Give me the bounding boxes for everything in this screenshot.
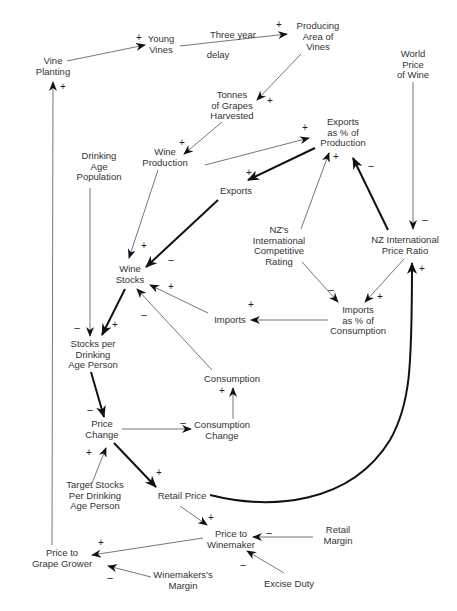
label-three-year: Three year	[210, 30, 256, 41]
sign-minus-grower-margin: –	[107, 572, 113, 583]
sign-plus-grower: +	[98, 537, 104, 548]
node-drinking-age-pop: Drinking Age Population	[77, 151, 122, 183]
link-excise-winemaker	[247, 551, 284, 573]
node-stocks-per-person: Stocks per Drinking Age Person	[68, 339, 118, 371]
sign-plus-exports: +	[246, 167, 252, 178]
node-consumption-change: Consumption Change	[194, 420, 250, 441]
link-planting-youngvines	[67, 45, 145, 61]
node-winemakers-margin: Winemakers's Margin	[153, 570, 212, 591]
sign-plus-exportspct: +	[302, 122, 308, 133]
link-area-tonnes	[257, 54, 301, 100]
sign-plus-production: +	[179, 137, 185, 148]
sign-minus-stockspp-population: –	[74, 322, 80, 333]
sign-minus-stocks-consumption: –	[141, 309, 147, 320]
link-consumption-stocks	[137, 289, 212, 370]
node-producing-area: Producing Area of Vines	[297, 21, 340, 53]
link-target-pricechange	[92, 448, 106, 483]
link-exports-stocks	[146, 200, 218, 267]
sign-minus-ratio-exportspct: –	[368, 160, 374, 171]
sign-plus-importspct-ratio: +	[377, 291, 383, 302]
sign-minus-worldprice: –	[422, 214, 428, 225]
link-winemargin-grower	[108, 566, 151, 577]
node-nz-competitive: NZ's International Competitive Rating	[253, 225, 305, 267]
sign-minus-importspct-competitive: –	[328, 284, 334, 295]
node-vine-planting: Vine Planting	[36, 56, 70, 77]
sign-plus-youngvines: +	[136, 32, 142, 43]
node-world-price: World Price of Wine	[397, 49, 429, 81]
link-imports-stocks	[150, 285, 208, 313]
link-ratio-importspct	[365, 259, 404, 302]
sign-plus-tonnes: +	[267, 95, 273, 106]
node-target-stocks: Target Stocks Per Drinking Age Person	[66, 480, 124, 512]
sign-plus-ratio-retail: +	[419, 263, 425, 274]
link-retail-winemaker	[180, 506, 207, 525]
node-price-change: Price Change	[85, 419, 118, 440]
node-wine-stocks: Wine Stocks	[116, 264, 145, 285]
node-excise-duty: Excise Duty	[264, 579, 314, 590]
node-tonnes-grapes: Tonnes of Grapes Harvested	[210, 90, 253, 122]
node-consumption: Consumption	[204, 374, 260, 385]
node-retail-price: Retail Price	[158, 491, 207, 502]
node-retail-margin: Retail Margin	[323, 525, 352, 546]
sign-minus-pricechange: –	[87, 404, 93, 415]
node-price-to-winemaker: Price to Winemaker	[207, 529, 255, 550]
sign-plus-winemaker-retail: +	[208, 512, 214, 523]
sign-plus-consumption: +	[219, 385, 225, 396]
sign-plus-stockspp-stocks: +	[112, 319, 118, 330]
node-imports-pct: Imports as % of Consumption	[330, 305, 386, 337]
node-exports-pct: Exports as % of Production	[320, 117, 365, 149]
link-exportspct-exports	[248, 148, 315, 180]
sign-plus-stocks-imports: +	[168, 281, 174, 292]
sign-minus-stocks-exports: –	[168, 254, 174, 265]
sign-plus-retailprice: +	[156, 467, 162, 478]
node-price-to-grower: Price to Grape Grower	[32, 548, 92, 569]
link-winemaker-grower	[92, 538, 203, 555]
sign-plus-area: +	[276, 19, 282, 30]
link-grower-planting	[52, 82, 53, 545]
sign-plus-pricechange-target: +	[86, 447, 92, 458]
sign-plus-planting: +	[60, 81, 66, 92]
node-nz-price-ratio: NZ International Price Ratio	[371, 235, 439, 256]
node-imports: Imports	[214, 315, 246, 326]
node-exports: Exports	[220, 186, 252, 197]
sign-minus-winemaker-margin: –	[266, 527, 272, 538]
sign-plus-competitive: +	[333, 151, 339, 162]
sign-plus-stocks-production: +	[141, 240, 147, 251]
sign-minus-winemaker-excise: –	[240, 559, 246, 570]
link-production-exportspct	[205, 138, 309, 165]
link-tonnes-production	[184, 122, 222, 154]
link-competitive-exportspct	[301, 153, 329, 229]
node-wine-production: Wine Production	[142, 147, 187, 168]
link-competitive-importspct	[302, 262, 338, 302]
label-delay: delay	[207, 50, 230, 61]
sign-plus-imports: +	[248, 299, 254, 310]
sign-minus-conschange: –	[180, 417, 186, 428]
node-young-vines: Young Vines	[148, 34, 175, 55]
causal-loop-diagram: Vine Planting Young Vines Three year del…	[0, 0, 457, 611]
